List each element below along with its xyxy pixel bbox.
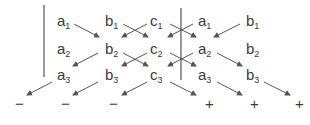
minus-sign-3: − [109,96,118,111]
plus-sign-2: + [250,96,259,111]
cell-b3-repeat: b3 [246,67,259,88]
cell-b3: b3 [105,67,118,88]
cell-c1: c1 [150,13,163,34]
cell-a3-repeat: a3 [198,67,211,88]
minus-sign-2: − [61,96,70,111]
cell-a2-repeat: a2 [198,41,211,62]
plus-sign-1: + [205,96,214,111]
cell-c2: c2 [150,41,163,62]
cell-c3: c3 [150,67,163,88]
cell-b1: b1 [105,13,118,34]
cell-b2-repeat: b2 [246,41,259,62]
cell-b1-repeat: b1 [246,13,259,34]
sarrus-diagram: a1 b1 c1 a1 b1 a2 b2 c2 a2 b2 a3 b3 c3 a… [0,0,310,125]
cell-a2: a2 [57,41,70,62]
cell-a1: a1 [57,13,70,34]
cell-b2: b2 [105,41,118,62]
minus-sign-1: − [15,96,24,111]
cell-a3: a3 [57,67,70,88]
plus-sign-3: + [295,96,304,111]
cell-a1-repeat: a1 [198,13,211,34]
